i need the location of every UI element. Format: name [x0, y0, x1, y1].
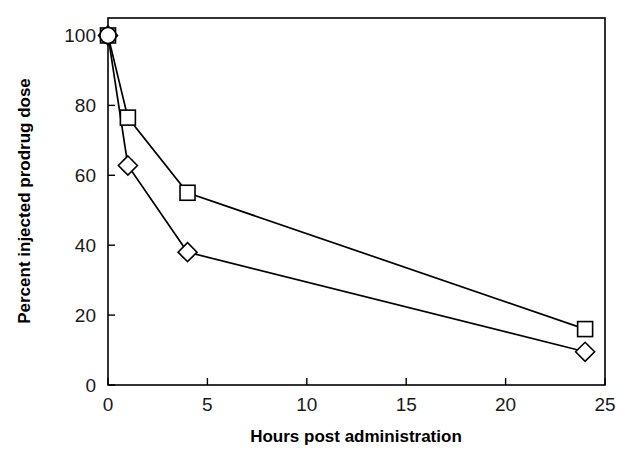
x-tick-label: 0 [103, 394, 114, 415]
x-axis-tick-labels: 0510152025 [103, 394, 616, 415]
chart-canvas: 0510152025 020406080100 Hours post admin… [0, 0, 643, 458]
chart-figure: 0510152025 020406080100 Hours post admin… [0, 0, 643, 458]
marker-square [578, 322, 593, 337]
series-markers [99, 26, 595, 361]
marker-diamond [178, 243, 197, 262]
x-tick-label: 15 [396, 394, 417, 415]
marker-diamond [576, 342, 595, 361]
series-markers [101, 28, 593, 337]
y-tick-label: 40 [75, 235, 96, 256]
y-tick-label: 20 [75, 305, 96, 326]
x-axis-ticks [108, 378, 605, 385]
x-tick-label: 5 [202, 394, 213, 415]
x-tick-label: 25 [594, 394, 615, 415]
x-axis-title: Hours post administration [250, 427, 462, 446]
marker-square [120, 110, 135, 125]
x-tick-label: 20 [495, 394, 516, 415]
data-series [108, 35, 585, 329]
y-axis-ticks [108, 35, 115, 385]
series-line [108, 35, 585, 329]
plot-frame [108, 18, 605, 385]
x-tick-label: 10 [296, 394, 317, 415]
y-axis-tick-labels: 020406080100 [64, 25, 96, 396]
y-tick-label: 0 [85, 375, 96, 396]
y-tick-label: 60 [75, 165, 96, 186]
data-series-layer [99, 26, 595, 361]
marker-square [180, 185, 195, 200]
marker-diamond [118, 156, 137, 175]
y-tick-label: 100 [64, 25, 96, 46]
y-axis-title: Percent injected prodrug dose [15, 78, 34, 324]
marker-circle-origin [100, 27, 116, 43]
y-tick-label: 80 [75, 95, 96, 116]
